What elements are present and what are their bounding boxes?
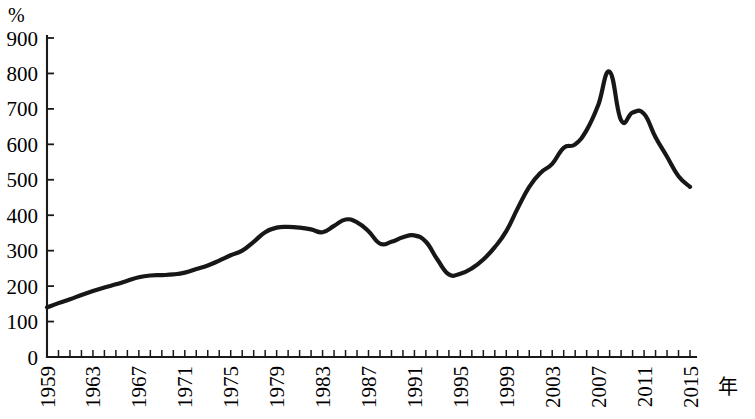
x-tick-label: 2007 [587, 366, 611, 408]
x-tick-label: 1987 [357, 366, 381, 408]
y-tick-label: 200 [7, 275, 39, 299]
y-tick-label: 300 [7, 239, 39, 263]
y-tick-label: 800 [7, 62, 39, 86]
x-tick-label: 2015 [679, 366, 703, 408]
x-tick-label: 1995 [449, 366, 473, 408]
x-tick-label: 2003 [541, 366, 565, 408]
x-tick-label: 1963 [81, 366, 105, 408]
y-axis-unit-label: % [8, 4, 25, 26]
y-tick-label: 0 [28, 346, 39, 370]
x-tick-label: 1999 [495, 366, 519, 408]
line-chart: 0100200300400500600700800900 19591963196… [0, 0, 755, 419]
y-tick-label: 700 [7, 97, 39, 121]
x-tick-label: 1959 [36, 366, 60, 408]
y-tick-label: 900 [7, 27, 39, 51]
x-tick-label: 1971 [173, 366, 197, 408]
x-tick-label: 1979 [265, 366, 289, 408]
y-tick-label: 500 [7, 168, 39, 192]
series-line [47, 71, 690, 307]
x-tick-label: 1967 [127, 366, 151, 408]
x-tick-label: 1983 [311, 366, 335, 408]
x-tick-label: 1975 [219, 366, 243, 408]
x-tick-label: 2011 [633, 366, 657, 407]
data-series [47, 71, 690, 307]
y-tick-label: 100 [7, 310, 39, 334]
x-axis: 1959196319671971197519791983198719911995… [36, 350, 703, 408]
y-axis: 0100200300400500600700800900 [7, 27, 55, 370]
chart-canvas: 0100200300400500600700800900 19591963196… [0, 0, 755, 419]
x-axis-title: 年 [718, 376, 738, 398]
y-tick-label: 400 [7, 204, 39, 228]
y-tick-label: 600 [7, 133, 39, 157]
x-tick-label: 1991 [403, 366, 427, 408]
